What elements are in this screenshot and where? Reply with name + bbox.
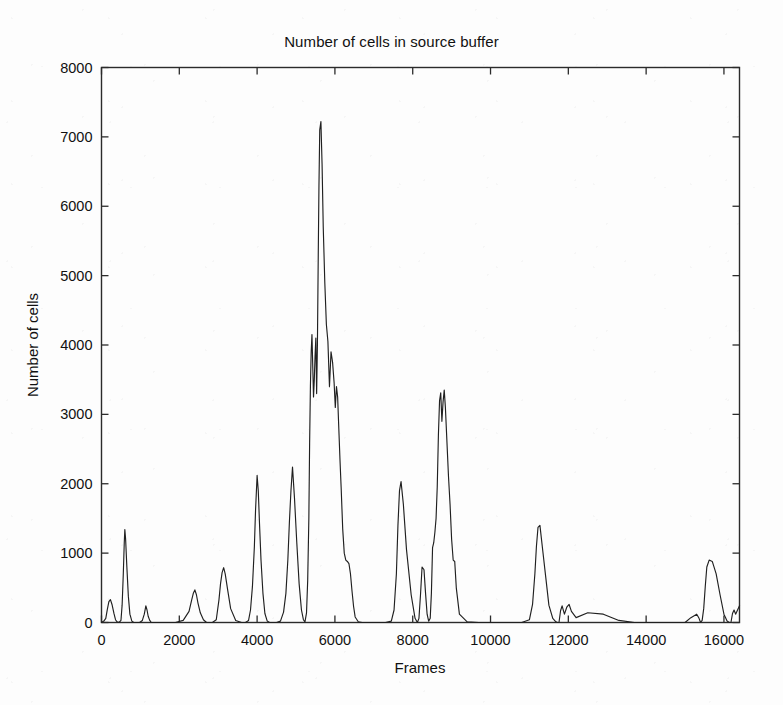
x-axis-label: Frames — [395, 659, 446, 676]
y-axis-ticks — [102, 68, 740, 623]
y-tick-label: 2000 — [60, 476, 92, 492]
y-tick-label: 4000 — [60, 337, 92, 353]
y-tick-label: 1000 — [60, 545, 92, 561]
x-tick-label: 16000 — [704, 632, 744, 648]
y-tick-label: 3000 — [60, 406, 92, 422]
y-tick-label: 6000 — [60, 198, 92, 214]
x-axis-ticks — [102, 68, 724, 623]
y-tick-label: 8000 — [60, 60, 92, 76]
y-axis-tick-labels: 010002000300040005000600070008000 — [60, 60, 92, 631]
x-tick-label: 4000 — [241, 632, 273, 648]
plot-frame — [102, 68, 740, 623]
y-tick-label: 5000 — [60, 268, 92, 284]
data-series-line — [102, 122, 740, 623]
y-tick-label: 0 — [84, 615, 92, 631]
x-tick-label: 10000 — [470, 632, 510, 648]
x-tick-label: 6000 — [319, 632, 351, 648]
x-tick-label: 2000 — [163, 632, 195, 648]
y-axis-label: Number of cells — [24, 293, 41, 397]
x-tick-label: 12000 — [548, 632, 588, 648]
chart-plot: 0200040006000800010000120001400016000 01… — [0, 0, 783, 705]
x-tick-label: 14000 — [626, 632, 666, 648]
y-tick-label: 7000 — [60, 129, 92, 145]
x-tick-label: 0 — [97, 632, 105, 648]
figure-canvas: Number of cells in source buffer 0200040… — [0, 0, 783, 705]
x-tick-label: 8000 — [397, 632, 429, 648]
x-axis-tick-labels: 0200040006000800010000120001400016000 — [97, 632, 744, 648]
